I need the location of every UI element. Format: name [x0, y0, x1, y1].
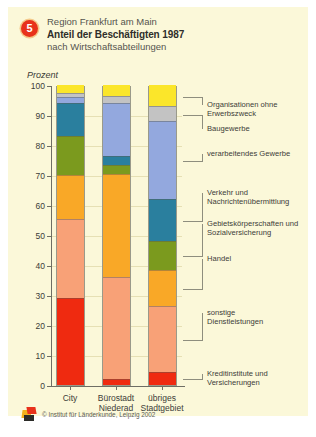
legend-leader-gebietskoerperschaften-und-sozialversicherung — [183, 256, 203, 257]
bar-segment-2-kreditinstitute-und-versicherungen — [149, 372, 176, 386]
legend-item-baugewerbe: Baugewerbe — [207, 124, 316, 133]
legend-leader-v-gebietskoerperschaften-und-sozialversicherung — [202, 224, 203, 256]
plot-area: 0102030405060708090100 City Bürostadt Ni… — [52, 86, 182, 386]
chart-header: 5 Region Frankfurt am Main Anteil der Be… — [15, 14, 305, 66]
chart-supertitle: Region Frankfurt am Main — [47, 16, 297, 28]
x-label-uebriges-line1: übriges — [133, 393, 191, 403]
legend-label-line2: Sozialversicherung — [207, 228, 316, 237]
x-tick-2 — [162, 386, 163, 390]
chart-legend: Kreditinstitute undVersicherungensonstig… — [183, 86, 316, 386]
legend-leader-kreditinstitute-und-versicherungen — [183, 379, 203, 380]
y-tick-label-90: 90 — [36, 111, 45, 121]
legend-leader-v-handel — [202, 259, 203, 289]
legend-leader-v-baugewerbe — [202, 115, 203, 130]
y-tick-label-80: 80 — [36, 141, 45, 151]
bar-segment-2-verkehr-und-nachrichtenuebermittlung — [149, 199, 176, 241]
legend-leader-v-sonstige-dienstleistungen — [202, 313, 203, 340]
legend-label-line2: Erwerbszweck — [207, 109, 316, 118]
bar-segment-1-verkehr-und-nachrichtenuebermittlung — [103, 156, 130, 165]
chart-panel: 5 Region Frankfurt am Main Anteil der Be… — [8, 7, 308, 416]
y-tick-100 — [47, 86, 52, 87]
legend-leader-v-verkehr-und-nachrichtenuebermittlung — [202, 193, 203, 221]
bar-segment-2-baugewerbe — [149, 106, 176, 121]
y-tick-0 — [47, 386, 52, 387]
legend-item-gebietskoerperschaften-und-sozialversicherung: Gebietskörperschaften undSozialversicher… — [207, 219, 316, 237]
y-tick-label-10: 10 — [36, 351, 45, 361]
legend-leader-verkehr-und-nachrichtenuebermittlung — [183, 221, 203, 222]
y-tick-label-60: 60 — [36, 201, 45, 211]
legend-label-line1: Kreditinstitute und — [207, 369, 316, 378]
bar-segment-2-sonstige-dienstleistungen — [149, 306, 176, 372]
chart-footer: © Institut für Länderkunde, Leipzig 2002 — [22, 407, 155, 421]
bar-segment-0-baugewerbe — [57, 93, 84, 98]
legend-item-kreditinstitute-und-versicherungen: Kreditinstitute undVersicherungen — [207, 369, 316, 387]
legend-item-verarbeitendes-gewerbe: verarbeitendes Gewerbe — [207, 149, 316, 158]
bar-segment-0-verarbeitendes-gewerbe — [57, 97, 84, 103]
bar-segment-1-sonstige-dienstleistungen — [103, 277, 130, 379]
chart-title: Anteil der Beschäftigten 1987 — [47, 28, 297, 41]
legend-label-line1: Verkehr und — [207, 188, 316, 197]
legend-label-line1: sonstige — [207, 308, 316, 317]
legend-leader-verarbeitendes-gewerbe — [183, 161, 203, 162]
bar-segment-0-verkehr-und-nachrichtenuebermittlung — [57, 103, 84, 136]
legend-leader-organisationen-ohne-erwerbszweck — [183, 97, 203, 98]
copyright-text: © Institut für Länderkunde, Leipzig 2002 — [42, 411, 155, 418]
legend-leader-baugewerbe — [183, 115, 203, 116]
legend-label-line2: Nachrichtenübermittlung — [207, 197, 316, 206]
legend-label-line1: Handel — [207, 254, 316, 263]
y-axis-unit-label: Prozent — [27, 70, 58, 80]
y-tick-label-70: 70 — [36, 171, 45, 181]
y-tick-label-40: 40 — [36, 261, 45, 271]
bar-uebriges-stadtgebiet — [148, 86, 177, 386]
legend-item-sonstige-dienstleistungen: sonstigeDienstleistungen — [207, 308, 316, 326]
legend-leader-v-verarbeitendes-gewerbe — [202, 154, 203, 161]
legend-leader-sonstige-dienstleistungen — [183, 340, 203, 341]
chart-page: 5 Region Frankfurt am Main Anteil der Be… — [0, 0, 316, 437]
legend-item-verkehr-und-nachrichtenuebermittlung: Verkehr undNachrichtenübermittlung — [207, 188, 316, 206]
legend-label-line1: verarbeitendes Gewerbe — [207, 149, 316, 158]
legend-label-line2: Dienstleistungen — [207, 317, 316, 326]
bar-segment-2-verarbeitendes-gewerbe — [149, 121, 176, 199]
bar-segment-1-organisationen-ohne-erwerbszweck — [103, 85, 130, 96]
y-tick-label-0: 0 — [40, 381, 45, 391]
legend-label-line1: Organisationen ohne — [207, 100, 316, 109]
legend-label-line2: Versicherungen — [207, 378, 316, 387]
bar-segment-1-kreditinstitute-und-versicherungen — [103, 379, 130, 385]
bar-segment-2-organisationen-ohne-erwerbszweck — [149, 85, 176, 106]
bar-segment-2-gebietskoerperschaften-und-sozialversicherung — [149, 241, 176, 270]
chart-subtitle: nach Wirtschaftsabteilungen — [47, 41, 297, 53]
legend-leader-handel — [183, 289, 203, 290]
bar-segment-2-handel — [149, 270, 176, 306]
legend-label-line1: Baugewerbe — [207, 124, 316, 133]
bar-segment-0-handel — [57, 175, 84, 219]
bar-segment-1-verarbeitendes-gewerbe — [103, 103, 130, 156]
bar-city — [56, 86, 85, 386]
legend-item-organisationen-ohne-erwerbszweck: Organisationen ohneErwerbszweck — [207, 100, 316, 118]
bar-segment-1-handel — [103, 174, 130, 278]
bar-buerostadt-niederad — [102, 86, 131, 386]
legend-item-handel: Handel — [207, 254, 316, 263]
legend-label-line1: Gebietskörperschaften und — [207, 219, 316, 228]
y-tick-label-50: 50 — [36, 231, 45, 241]
bar-segment-1-baugewerbe — [103, 96, 130, 104]
bar-segment-0-gebietskoerperschaften-und-sozialversicherung — [57, 136, 84, 175]
y-tick-label-30: 30 — [36, 291, 45, 301]
bar-segment-1-gebietskoerperschaften-und-sozialversicherung — [103, 165, 130, 174]
y-tick-label-20: 20 — [36, 321, 45, 331]
title-block: Region Frankfurt am Main Anteil der Besc… — [47, 16, 297, 53]
x-tick-0 — [70, 386, 71, 390]
y-tick-label-100: 100 — [31, 81, 45, 91]
figure-number-badge: 5 — [21, 20, 38, 37]
bar-segment-0-kreditinstitute-und-versicherungen — [57, 298, 84, 385]
ifl-logo-icon — [22, 407, 37, 421]
legend-leader-v-kreditinstitute-und-versicherungen — [202, 374, 203, 379]
bar-segment-0-sonstige-dienstleistungen — [57, 219, 84, 299]
x-tick-1 — [116, 386, 117, 390]
legend-leader-v-organisationen-ohne-erwerbszweck — [202, 97, 203, 106]
bar-segment-0-organisationen-ohne-erwerbszweck — [57, 85, 84, 93]
